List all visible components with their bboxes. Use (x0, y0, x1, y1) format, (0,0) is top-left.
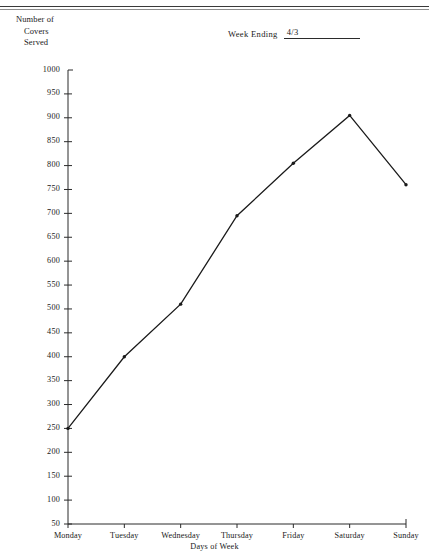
y-axis-tick-label: 200 (26, 447, 60, 456)
y-axis-tick-label: 300 (26, 399, 60, 408)
chart-canvas (0, 0, 429, 555)
data-point-marker (292, 161, 295, 164)
y-axis-tick-label: 550 (26, 280, 60, 289)
y-axis-tick-label: 1000 (26, 65, 60, 74)
data-point-marker (404, 183, 407, 186)
y-axis-tick-label: 150 (26, 471, 60, 480)
y-axis-tick-label: 600 (26, 256, 60, 265)
y-axis-tick-label: 400 (26, 351, 60, 360)
x-axis-tick-label: Sunday (393, 531, 418, 540)
line-chart (0, 0, 429, 555)
data-series-line (68, 115, 406, 428)
x-axis-tick-label: Saturday (335, 531, 365, 540)
x-axis-tick-label: Thursday (221, 531, 253, 540)
y-axis-tick-label: 750 (26, 184, 60, 193)
y-axis-tick-label: 500 (26, 303, 60, 312)
x-axis-title: Days of Week (0, 542, 429, 551)
y-axis-tick-label: 850 (26, 136, 60, 145)
y-axis-tick-label: 50 (26, 519, 60, 528)
x-axis-tick-label: Friday (282, 531, 304, 540)
x-axis-tick-label: Wednesday (161, 531, 200, 540)
data-point-marker (348, 114, 351, 117)
y-axis-tick-label: 800 (26, 160, 60, 169)
y-axis-tick-label: 650 (26, 232, 60, 241)
y-axis-tick-label: 350 (26, 375, 60, 384)
y-axis-tick-label: 700 (26, 208, 60, 217)
y-axis-tick-label: 100 (26, 495, 60, 504)
y-axis-tick-label: 250 (26, 423, 60, 432)
data-point-marker (235, 214, 238, 217)
y-axis-tick-label: 450 (26, 327, 60, 336)
y-axis-tick-label: 900 (26, 112, 60, 121)
data-point-marker (179, 302, 182, 305)
x-axis-tick-label: Monday (54, 531, 82, 540)
y-axis-tick-label: 950 (26, 88, 60, 97)
data-point-marker (123, 355, 126, 358)
data-point-marker (66, 427, 69, 430)
x-axis-tick-label: Tuesday (110, 531, 139, 540)
